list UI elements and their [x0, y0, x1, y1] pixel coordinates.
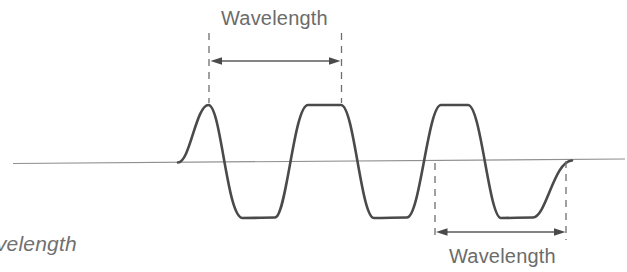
wavelength-diagram: Wavelength Wavelength avelength — [0, 0, 627, 272]
baseline-axis — [13, 159, 625, 164]
top-measure-arrowhead-left — [211, 57, 223, 65]
wave-graphic — [0, 0, 627, 272]
bottom-measure-arrowhead-right — [554, 228, 566, 236]
bottom-measure-arrowhead-left — [436, 228, 448, 236]
cropped-wavelength-label: avelength — [0, 233, 77, 254]
top-wavelength-label: Wavelength — [221, 8, 328, 28]
bottom-wavelength-label: Wavelength — [449, 246, 556, 266]
top-measure-arrowhead-right — [329, 57, 341, 65]
